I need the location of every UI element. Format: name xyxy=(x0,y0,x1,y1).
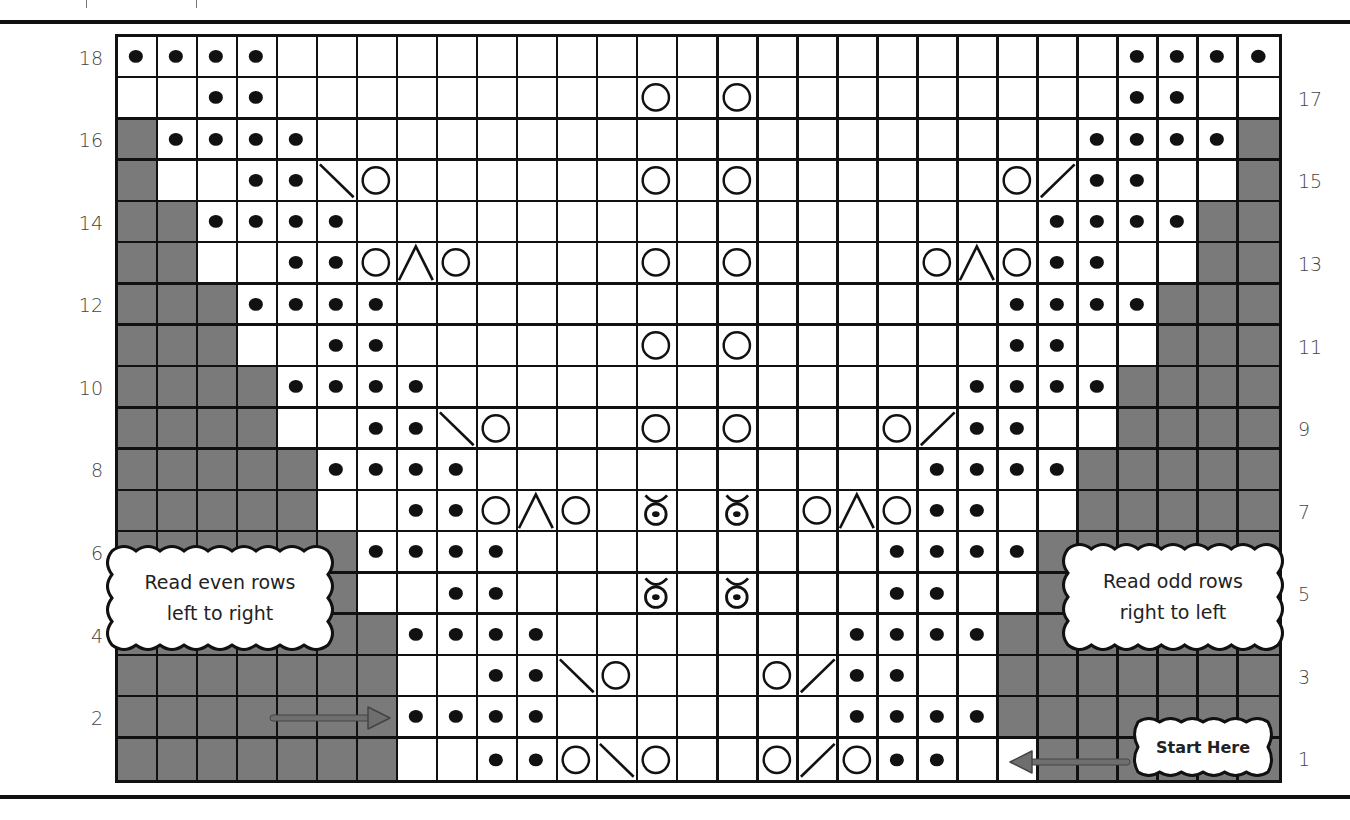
knit-cell xyxy=(518,161,559,203)
no-stitch-cell xyxy=(278,491,319,533)
no-stitch-cell xyxy=(158,697,199,739)
knit-cell xyxy=(839,450,880,492)
no-stitch-cell xyxy=(318,656,359,698)
no-stitch-cell xyxy=(198,409,239,451)
purl-dot-icon xyxy=(839,697,877,736)
knit-cell xyxy=(759,574,800,616)
yarn-over-circle-icon xyxy=(719,243,757,282)
purl-cell xyxy=(999,409,1040,451)
purl-cell xyxy=(278,285,319,327)
knit-cell xyxy=(919,326,960,368)
knit-cell xyxy=(318,409,359,451)
purl-dot-icon xyxy=(318,326,356,365)
purl-cell xyxy=(1119,285,1160,327)
purl-dot-icon xyxy=(358,450,396,489)
yarn-over-cell xyxy=(719,409,760,451)
yarn-over-cell xyxy=(638,161,679,203)
knit-cell xyxy=(799,615,840,657)
double-decrease-cell xyxy=(398,243,439,285)
knit-cell xyxy=(238,326,279,368)
knit-cell xyxy=(398,78,439,120)
knit-cell xyxy=(1119,326,1160,368)
knit-cell xyxy=(959,78,1000,120)
knit-cell xyxy=(719,285,760,327)
knit-cell xyxy=(598,367,639,409)
knit-cell xyxy=(158,78,199,120)
cropped-text-fragment xyxy=(86,0,87,8)
purl-cell xyxy=(438,450,479,492)
purl-cell xyxy=(1159,202,1200,244)
purl-dot-icon xyxy=(518,697,556,736)
purl-dot-icon xyxy=(1039,285,1077,324)
purl-dot-icon xyxy=(278,243,316,282)
purl-cell xyxy=(318,243,359,285)
yarn-over-circle-icon xyxy=(879,491,917,530)
knit-cell xyxy=(398,202,439,244)
no-stitch-cell xyxy=(1119,409,1160,451)
yarn-over-circle-icon xyxy=(638,78,676,117)
row-number-label: 8 xyxy=(63,460,103,480)
purl-dot-icon xyxy=(358,532,396,571)
knit-cell xyxy=(839,409,880,451)
right-slant-decrease-icon xyxy=(799,656,837,695)
yarn-over-circle-icon xyxy=(999,243,1037,282)
knit-cell xyxy=(678,491,719,533)
purl-cell xyxy=(879,615,920,657)
knit-cell xyxy=(518,37,559,79)
purl-cell xyxy=(518,615,559,657)
knit-cell xyxy=(719,615,760,657)
purl-dot-icon xyxy=(478,532,516,571)
purl-dot-icon xyxy=(919,450,957,489)
knit-cell xyxy=(839,161,880,203)
purl-cell xyxy=(1159,37,1200,79)
purl-dot-icon xyxy=(318,367,356,406)
purl-cell xyxy=(1079,161,1120,203)
purl-dot-icon xyxy=(118,37,156,76)
purl-cell xyxy=(518,739,559,781)
ssk-decrease-cell xyxy=(558,656,599,698)
purl-cell xyxy=(358,450,399,492)
purl-cell xyxy=(1039,243,1080,285)
knit-cell xyxy=(1239,78,1280,120)
odd-rows-callout: Read odd rows right to left xyxy=(1062,543,1284,651)
knit-cell xyxy=(719,367,760,409)
even-callout-line1: Read even rows xyxy=(145,567,296,598)
knit-cell xyxy=(678,615,719,657)
purl-dot-icon xyxy=(839,615,877,654)
purl-dot-icon xyxy=(1039,202,1077,241)
no-stitch-cell xyxy=(118,491,159,533)
knit-cell xyxy=(759,491,800,533)
knit-cell xyxy=(919,656,960,698)
bobble-cell xyxy=(719,491,760,533)
knit-cell xyxy=(759,161,800,203)
knit-cell xyxy=(959,202,1000,244)
purl-dot-icon xyxy=(919,532,957,571)
bobble-symbol-icon xyxy=(638,491,676,530)
purl-dot-icon xyxy=(398,367,436,406)
purl-cell xyxy=(879,739,920,781)
purl-dot-icon xyxy=(999,367,1037,406)
no-stitch-cell xyxy=(238,656,279,698)
purl-dot-icon xyxy=(318,243,356,282)
purl-cell xyxy=(478,697,519,739)
yarn-over-circle-icon xyxy=(478,409,516,448)
purl-cell xyxy=(1239,37,1280,79)
purl-cell xyxy=(1039,367,1080,409)
knit-cell xyxy=(1079,326,1120,368)
no-stitch-cell xyxy=(358,739,399,781)
purl-cell xyxy=(398,697,439,739)
no-stitch-cell xyxy=(278,656,319,698)
knit-cell xyxy=(839,78,880,120)
knit-cell xyxy=(478,37,519,79)
row-number-label: 11 xyxy=(1298,337,1322,357)
knit-cell xyxy=(799,409,840,451)
no-stitch-cell xyxy=(1199,656,1240,698)
no-stitch-cell xyxy=(1199,326,1240,368)
knit-cell xyxy=(278,37,319,79)
purl-cell xyxy=(358,532,399,574)
purl-cell xyxy=(919,697,960,739)
no-stitch-cell xyxy=(1079,656,1120,698)
start-here-label: Start Here xyxy=(1156,732,1250,763)
purl-cell xyxy=(398,409,439,451)
yarn-over-circle-icon xyxy=(759,739,797,781)
